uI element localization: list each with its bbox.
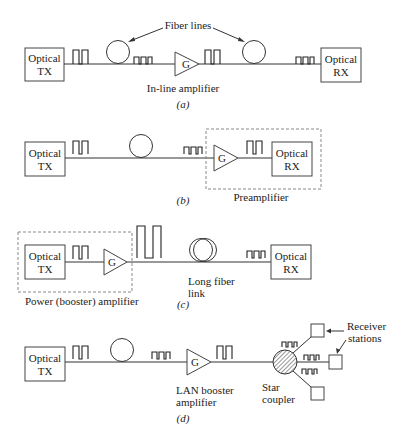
signal-pulse-attenuated bbox=[296, 57, 314, 64]
panel-caption: (a) bbox=[177, 98, 190, 111]
booster-amplifier-label: Power (booster) amplifier bbox=[25, 295, 139, 308]
branch-line bbox=[293, 337, 311, 353]
fiber-spool-icon bbox=[130, 135, 153, 158]
arrowhead-icon bbox=[336, 348, 340, 354]
arrowhead-icon bbox=[128, 37, 135, 42]
star-coupler-icon bbox=[273, 350, 297, 374]
amp-gain-symbol: G bbox=[182, 58, 190, 70]
lan-amp-label-line2: amplifier bbox=[176, 396, 217, 408]
callout-arrow bbox=[130, 28, 163, 41]
signal-pulse-attenuated bbox=[152, 352, 170, 359]
fiber-spool-icon bbox=[243, 41, 266, 64]
receiver-station-box bbox=[311, 324, 324, 337]
long-fiber-spool-icon bbox=[194, 239, 217, 262]
preamplifier-label: Preamplifier bbox=[234, 191, 289, 203]
optical-amplifier-applications-diagram: Optical TX G In-line amplifier Optical R… bbox=[0, 0, 409, 436]
rx-label-line1: Optical bbox=[325, 53, 357, 65]
signal-pulse-attenuated bbox=[247, 251, 265, 258]
signal-pulse-amplified bbox=[217, 346, 232, 359]
receiver-station-box bbox=[329, 355, 342, 369]
long-fiber-label-line2: link bbox=[188, 287, 206, 299]
panel-c: Optical TX G Long fiber link Optical RX … bbox=[18, 226, 311, 311]
signal-pulse-attenuated bbox=[134, 57, 152, 64]
inline-amplifier-label: In-line amplifier bbox=[147, 82, 220, 94]
rx-label-line1: Optical bbox=[276, 147, 308, 159]
tx-label-line2: TX bbox=[37, 65, 52, 77]
amp-gain-symbol: G bbox=[218, 152, 226, 164]
signal-pulse-split bbox=[302, 369, 317, 374]
tx-label-line1: Optical bbox=[29, 352, 61, 364]
rx-label-line1: Optical bbox=[275, 250, 307, 262]
tx-label-line1: Optical bbox=[29, 147, 61, 159]
long-fiber-spool-icon bbox=[190, 239, 213, 262]
signal-pulse-strong bbox=[73, 141, 88, 154]
tx-label-line1: Optical bbox=[28, 52, 60, 64]
signal-pulse-amplified bbox=[247, 141, 262, 154]
signal-pulse-split bbox=[304, 355, 319, 360]
signal-pulse-strong bbox=[73, 246, 88, 259]
tx-label-line2: TX bbox=[38, 365, 53, 377]
fiber-spool-icon bbox=[107, 41, 130, 64]
lan-amp-label-line1: LAN booster bbox=[176, 384, 234, 396]
panel-b: Optical TX G Optical RX Preamplifier (b) bbox=[25, 129, 321, 207]
signal-pulse-attenuated bbox=[184, 147, 202, 154]
signal-pulse-boosted bbox=[137, 226, 161, 258]
receiver-stations-label-line2: stations bbox=[348, 332, 382, 344]
signal-pulse-strong bbox=[73, 346, 88, 359]
arrowhead-icon bbox=[238, 37, 245, 42]
tx-label-line1: Optical bbox=[29, 250, 61, 262]
panel-caption: (d) bbox=[177, 412, 190, 425]
rx-label-line2: RX bbox=[283, 263, 298, 275]
arrowhead-icon bbox=[326, 329, 331, 334]
amp-gain-symbol: G bbox=[191, 356, 199, 368]
amp-gain-symbol: G bbox=[108, 256, 116, 268]
panel-caption: (c) bbox=[177, 298, 190, 311]
panel-d: Optical TX G LAN booster amplifier Star … bbox=[25, 320, 386, 425]
rx-label-line2: RX bbox=[284, 160, 299, 172]
fiber-lines-callout: Fiber lines bbox=[165, 19, 212, 31]
tx-label-line2: TX bbox=[38, 160, 53, 172]
receiver-station-box bbox=[311, 387, 324, 400]
star-coupler-label-line2: coupler bbox=[262, 393, 295, 405]
receiver-stations-label-line1: Receiver bbox=[347, 320, 386, 332]
rx-label-line2: RX bbox=[333, 66, 348, 78]
panel-a: Optical TX G In-line amplifier Optical R… bbox=[25, 19, 361, 111]
fiber-spool-icon bbox=[111, 339, 134, 362]
tx-label-line2: TX bbox=[38, 263, 53, 275]
signal-pulse-split bbox=[282, 342, 297, 347]
panel-caption: (b) bbox=[177, 194, 190, 207]
long-fiber-label-line1: Long fiber bbox=[188, 275, 235, 287]
signal-pulse-strong bbox=[73, 50, 88, 64]
star-coupler-label-line1: Star bbox=[262, 381, 280, 393]
signal-pulse-amplified bbox=[205, 50, 220, 64]
